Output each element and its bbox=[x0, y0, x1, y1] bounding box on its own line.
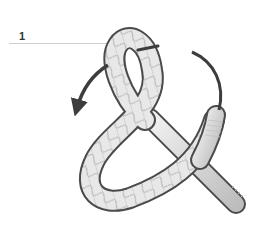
arrow-counterclockwise-icon bbox=[77, 65, 108, 108]
knot-illustration bbox=[0, 0, 264, 228]
arrow-arc-right-icon bbox=[192, 52, 221, 110]
